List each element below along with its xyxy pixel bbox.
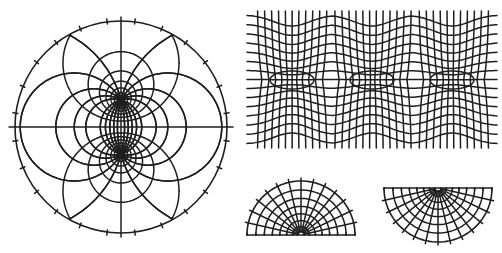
rim-tick [224, 113, 229, 114]
rim-tick [135, 19, 136, 24]
strip-horizontal-line [247, 15, 497, 25]
half-disk-radial [288, 179, 300, 231]
half-disk-radial [425, 191, 437, 243]
rim-tick [224, 141, 229, 142]
half-disk-radial [245, 222, 297, 234]
bipolar-disk-grid [9, 17, 233, 237]
rim-tick [13, 113, 18, 114]
rim-tick [13, 141, 18, 142]
lower-half-disk-grid [382, 188, 493, 245]
strip-vertical-line [453, 11, 454, 148]
strip-horizontal-line [247, 133, 497, 144]
half-disk-radial [302, 179, 314, 231]
half-disk-radial [382, 189, 434, 201]
rim-tick [107, 230, 108, 235]
diagram-canvas [0, 0, 502, 253]
rim-tick [135, 230, 136, 235]
half-disk-radial [439, 191, 451, 243]
upper-half-disk-grid [245, 178, 356, 235]
rim-tick [107, 19, 108, 24]
periodic-strip-grid [247, 11, 497, 148]
half-disk-radial [304, 222, 356, 234]
half-disk-radial [441, 189, 493, 201]
